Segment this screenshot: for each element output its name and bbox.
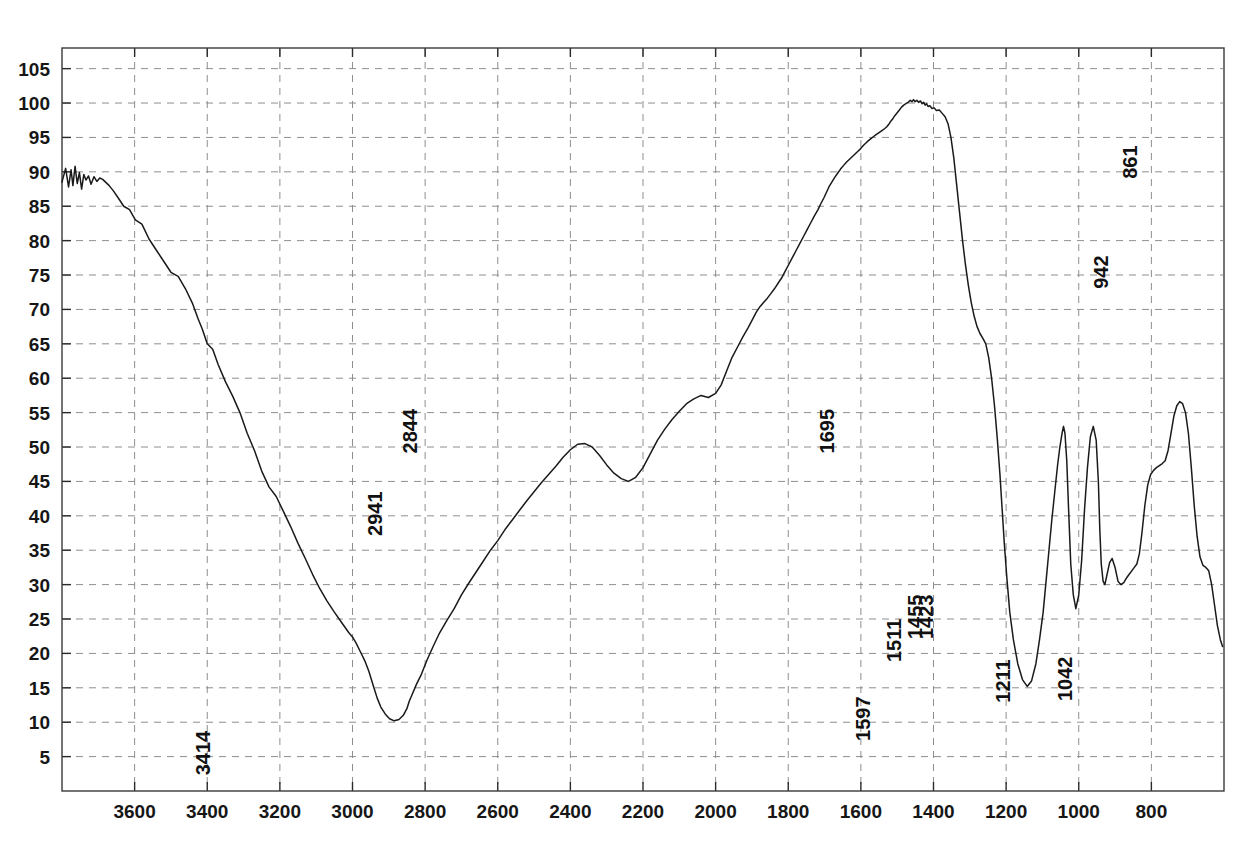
y-tick-label: 30 <box>29 575 50 596</box>
y-tick-label: 60 <box>29 368 50 389</box>
peak-label-group: 1695 <box>816 409 838 454</box>
y-tick-label: 40 <box>29 506 50 527</box>
x-tick-label: 2200 <box>622 801 664 822</box>
peak-label-group: 1211 <box>992 659 1014 702</box>
tick-mark-layer <box>62 48 1151 791</box>
y-axis-tick-labels: 5101520253035404550556065707580859095100… <box>18 59 50 768</box>
peak-label-group: 942 <box>1090 255 1112 288</box>
y-tick-label: 55 <box>29 403 51 424</box>
grid-layer <box>63 49 1223 790</box>
x-tick-label: 1000 <box>1058 801 1100 822</box>
x-tick-label: 2600 <box>477 801 519 822</box>
peak-label-group: 2844 <box>399 408 421 453</box>
y-tick-label: 95 <box>29 127 51 148</box>
peak-label-2844: 2844 <box>399 408 421 453</box>
x-tick-label: 3000 <box>331 801 373 822</box>
x-tick-label: 1200 <box>985 801 1027 822</box>
peak-label-1597: 1597 <box>852 696 874 741</box>
y-tick-label: 5 <box>39 747 50 768</box>
y-tick-label: 90 <box>29 162 50 183</box>
x-tick-label: 2800 <box>404 801 446 822</box>
peak-label-group: 861 <box>1119 145 1141 178</box>
y-tick-label: 35 <box>29 540 51 561</box>
y-tick-label: 25 <box>29 609 51 630</box>
y-tick-label: 50 <box>29 437 50 458</box>
y-tick-label: 100 <box>18 93 50 114</box>
peak-label-group: 3414 <box>192 730 214 775</box>
peak-label-group: 1042 <box>1054 657 1076 702</box>
y-tick-label: 15 <box>29 678 51 699</box>
y-tick-label: 80 <box>29 231 50 252</box>
ir-spectrum-chart: 5101520253035404550556065707580859095100… <box>0 0 1255 846</box>
x-tick-label: 3400 <box>186 801 228 822</box>
peak-label-2941: 2941 <box>364 491 386 536</box>
peak-label-group: 1511 <box>883 619 905 662</box>
x-axis-tick-labels: 3600340032003000280026002400220020001800… <box>113 801 1167 822</box>
peak-label-1042: 1042 <box>1054 657 1076 702</box>
peak-label-3414: 3414 <box>192 730 214 775</box>
spectrum-trace-layer <box>62 100 1223 721</box>
x-tick-label: 3600 <box>113 801 155 822</box>
x-tick-label: 2000 <box>694 801 736 822</box>
x-tick-label: 1400 <box>912 801 954 822</box>
x-tick-label: 800 <box>1136 801 1168 822</box>
x-tick-label: 3200 <box>259 801 301 822</box>
peak-label-942: 942 <box>1090 255 1112 288</box>
y-tick-label: 45 <box>29 471 51 492</box>
x-tick-label: 1600 <box>840 801 882 822</box>
y-tick-label: 70 <box>29 299 50 320</box>
peak-label-group: 2941 <box>364 491 386 536</box>
peak-label-group: 1597 <box>852 696 874 741</box>
x-tick-label: 1800 <box>767 801 809 822</box>
y-tick-label: 85 <box>29 196 51 217</box>
spectrum-plot-svg: 5101520253035404550556065707580859095100… <box>0 0 1255 846</box>
x-tick-label: 2400 <box>549 801 591 822</box>
peak-label-861: 861 <box>1119 145 1141 178</box>
spectrum-trace <box>62 100 1223 721</box>
peak-label-1695: 1695 <box>816 409 838 454</box>
peak-label-1511: 1511 <box>883 619 905 662</box>
peak-label-1211: 1211 <box>992 659 1014 702</box>
y-tick-label: 10 <box>29 712 50 733</box>
y-tick-label: 105 <box>18 59 50 80</box>
y-tick-label: 65 <box>29 334 51 355</box>
peak-label-group: 1423 <box>915 595 937 640</box>
y-tick-label: 75 <box>29 265 51 286</box>
peak-label-1423: 1423 <box>915 595 937 640</box>
y-tick-label: 20 <box>29 643 50 664</box>
